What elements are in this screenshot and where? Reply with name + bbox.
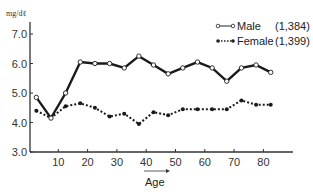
legend-item-male: Male (1,384) (216, 20, 310, 32)
open-circle-icon (216, 24, 220, 28)
filled-circle-marker (166, 113, 170, 117)
open-circle-marker (239, 66, 243, 70)
x-axis-label: Age (145, 176, 165, 188)
open-circle-marker (151, 63, 155, 67)
open-circle-marker (210, 66, 214, 70)
filled-circle-marker (93, 106, 97, 110)
legend-female-label: Female (237, 35, 274, 47)
filled-circle-marker (225, 107, 229, 111)
open-circle-marker (107, 61, 111, 65)
filled-circle-marker (34, 109, 38, 113)
open-circle-marker (122, 66, 126, 70)
open-circle-marker (269, 70, 273, 74)
series-female (34, 98, 272, 126)
filled-circle-marker (239, 98, 243, 102)
x-tick-label: 10 (52, 156, 64, 168)
y-tick-label: 6.0 (12, 58, 27, 70)
open-circle-marker (34, 95, 38, 99)
open-circle-marker (93, 61, 97, 65)
filled-circle-marker (64, 104, 68, 108)
filled-circle-marker (181, 107, 185, 111)
open-circle-marker (225, 79, 229, 83)
x-tick-label: 50 (169, 156, 181, 168)
filled-circle-icon (231, 39, 235, 43)
chart-canvas: mg/dℓ 3.04.05.06.07.0 1020304050607080 A… (0, 0, 313, 192)
filled-circle-marker (269, 103, 273, 107)
legend-male-label: Male (237, 20, 261, 32)
x-tick-label: 20 (81, 156, 93, 168)
filled-circle-marker (210, 107, 214, 111)
x-tick-label: 70 (228, 156, 240, 168)
x-tick-label: 80 (257, 156, 269, 168)
open-circle-marker (63, 91, 67, 95)
open-circle-marker (181, 66, 185, 70)
legend-male-count: (1,384) (275, 20, 310, 32)
filled-circle-marker (195, 107, 199, 111)
open-circle-marker (49, 116, 53, 120)
open-circle-marker (166, 72, 170, 76)
filled-circle-marker (78, 101, 82, 105)
y-tick-label: 3.0 (12, 146, 27, 158)
open-circle-marker (254, 63, 258, 67)
open-circle-marker (137, 54, 141, 58)
filled-circle-icon (216, 39, 220, 43)
arrow-right-icon (166, 169, 170, 173)
legend-female-count: (1,399) (275, 35, 310, 47)
filled-circle-marker (152, 110, 156, 114)
x-tick-label: 40 (140, 156, 152, 168)
open-circle-marker (78, 60, 82, 64)
x-tick-label: 30 (111, 156, 123, 168)
y-tick-label: 4.0 (12, 117, 27, 129)
legend: Male (1,384) Female (1,399) (216, 20, 310, 47)
x-axis-title: Age (144, 169, 170, 188)
filled-circle-marker (137, 122, 141, 126)
open-circle-marker (195, 60, 199, 64)
filled-circle-marker (108, 115, 112, 119)
y-tick-label: 7.0 (12, 28, 27, 40)
filled-circle-marker (122, 112, 126, 116)
filled-circle-marker (254, 103, 258, 107)
x-tick-label: 60 (199, 156, 211, 168)
y-tick-label: 5.0 (12, 87, 27, 99)
legend-item-female: Female (1,399) (216, 35, 310, 47)
y-unit-label: mg/dℓ (6, 9, 26, 18)
open-circle-icon (231, 24, 235, 28)
